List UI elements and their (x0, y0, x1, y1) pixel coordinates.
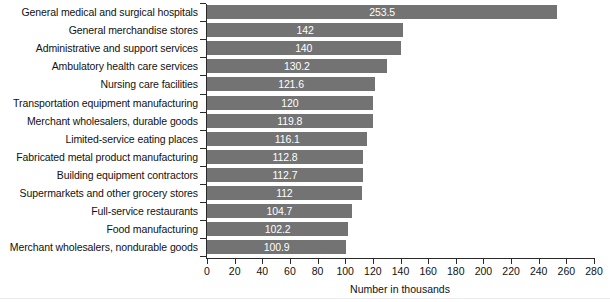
x-axis-tick-label: 40 (256, 265, 268, 277)
bottom-divider (0, 298, 610, 299)
category-axis-labels: General medical and surgical hospitalsGe… (0, 0, 203, 258)
bar-value-label: 112 (207, 186, 362, 200)
x-axis-tick-label: 20 (229, 265, 241, 277)
category-label: Fabricated metal product manufacturing (16, 151, 198, 163)
x-axis-tick (373, 259, 374, 264)
bar-value-label: 142 (207, 23, 403, 37)
category-label: Nursing care facilities (101, 78, 199, 90)
category-label: Administrative and support services (36, 42, 198, 54)
x-axis-tick (262, 259, 263, 264)
x-axis-tick (566, 259, 567, 264)
y-axis-tick (200, 3, 206, 4)
x-axis-tick (401, 259, 402, 264)
y-axis-tick (200, 75, 206, 76)
x-axis-tick-label: 120 (364, 265, 382, 277)
y-axis-tick (200, 130, 206, 131)
x-axis-tick (483, 259, 484, 264)
x-axis-tick-label: 140 (392, 265, 410, 277)
x-axis-tick-label: 260 (558, 265, 576, 277)
x-axis-tick (207, 259, 208, 264)
category-label: General merchandise stores (69, 24, 198, 36)
x-axis-tick-label: 60 (284, 265, 296, 277)
x-axis-tick-label: 100 (336, 265, 354, 277)
category-label: Transportation equipment manufacturing (13, 97, 198, 109)
x-axis-tick (456, 259, 457, 264)
category-label: General medical and surgical hospitals (21, 6, 198, 18)
x-axis-tick-label: 0 (204, 265, 210, 277)
plot-area: 253.5142140130.2121.6120119.8116.1112.81… (207, 0, 610, 258)
x-axis-tick (511, 259, 512, 264)
bar-value-label: 112.8 (207, 150, 363, 164)
x-axis-tick (235, 259, 236, 264)
bar-value-label: 116.1 (207, 132, 367, 146)
x-axis-tick (539, 259, 540, 264)
x-axis-tick-label: 280 (585, 265, 603, 277)
category-label: Ambulatory health care services (52, 60, 198, 72)
y-axis-tick (200, 238, 206, 239)
bar-value-label: 102.2 (207, 222, 348, 236)
bar-value-label: 121.6 (207, 77, 375, 91)
x-axis-tick-label: 220 (502, 265, 520, 277)
x-axis-tick-label: 240 (530, 265, 548, 277)
y-axis-tick (200, 202, 206, 203)
y-axis-tick (200, 220, 206, 221)
y-axis-tick (200, 184, 206, 185)
bar-value-label: 130.2 (207, 59, 387, 73)
bar-value-label: 112.7 (207, 168, 363, 182)
x-axis-tick (290, 259, 291, 264)
x-axis-title-text: Number in thousands (350, 283, 450, 295)
bar-value-label: 120 (207, 96, 373, 110)
bar-value-label: 104.7 (207, 204, 352, 218)
bar-value-label: 140 (207, 41, 401, 55)
bar-value-label: 119.8 (207, 114, 373, 128)
category-label: Full-service restaurants (91, 205, 198, 217)
x-axis-tick (594, 259, 595, 264)
y-axis-tick (200, 112, 206, 113)
category-label: Limited-service eating places (66, 133, 199, 145)
bar-value-label: 100.9 (207, 240, 346, 254)
x-axis-tick (318, 259, 319, 264)
category-label: Food manufacturing (106, 223, 198, 235)
y-axis-tick (200, 148, 206, 149)
x-axis-tick-label: 200 (475, 265, 493, 277)
category-label: Building equipment contractors (57, 169, 198, 181)
x-axis-tick-label: 80 (312, 265, 324, 277)
category-label: Merchant wholesalers, nondurable goods (10, 241, 198, 253)
y-axis-tick (200, 57, 206, 58)
y-axis-tick (200, 256, 206, 257)
x-axis-tick (345, 259, 346, 264)
category-label: Supermarkets and other grocery stores (20, 187, 198, 199)
x-axis-tick-label: 160 (419, 265, 437, 277)
x-axis-title: Number in thousands (0, 283, 610, 295)
y-axis-tick (200, 94, 206, 95)
y-axis-tick (200, 166, 206, 167)
x-axis-tick-label: 180 (447, 265, 465, 277)
y-axis-tick (200, 39, 206, 40)
category-label: Merchant wholesalers, durable goods (27, 115, 198, 127)
y-axis-tick (200, 21, 206, 22)
horizontal-bar-chart: General medical and surgical hospitalsGe… (0, 0, 610, 302)
x-axis-tick (428, 259, 429, 264)
bar-value-label: 253.5 (207, 5, 557, 19)
